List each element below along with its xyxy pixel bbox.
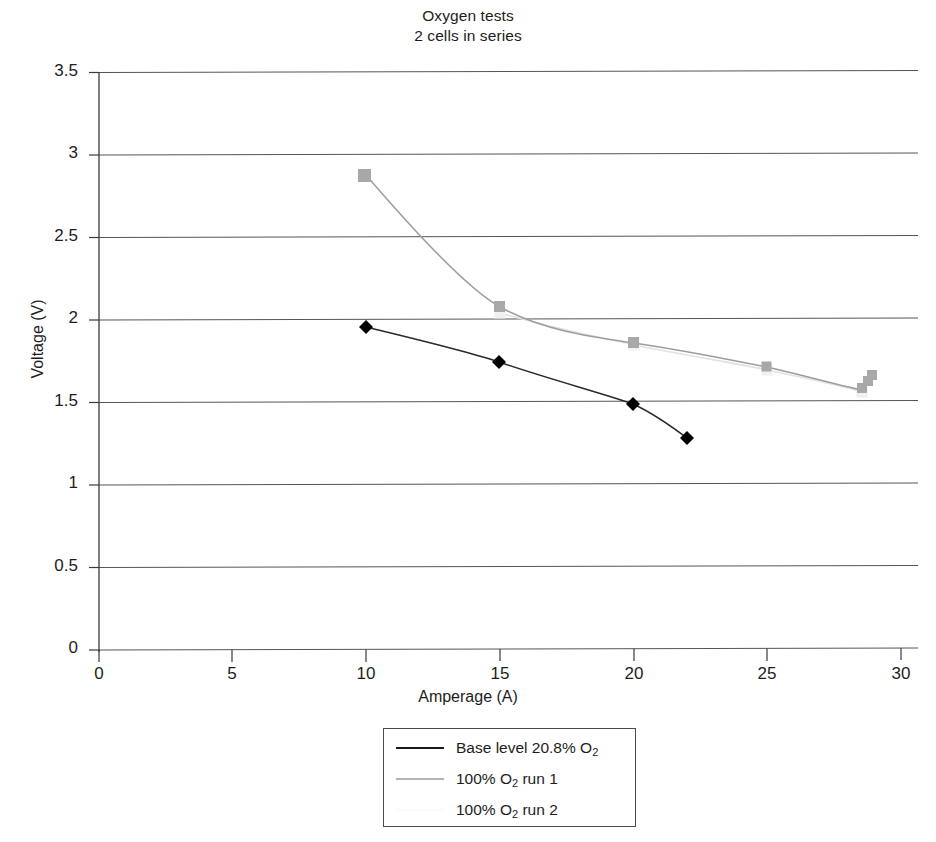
series-run1	[358, 169, 877, 393]
gridline-1.0	[99, 483, 918, 485]
chart-legend: Base level 20.8% O2 100% O2 run 1 100% O…	[383, 728, 636, 827]
y-tick-label-2: 2	[14, 308, 78, 328]
x-tick-label-30: 30	[871, 664, 931, 684]
legend-label-base-level: Base level 20.8% O2	[456, 739, 598, 757]
gridline-3.5	[99, 71, 918, 73]
legend-key-diamond	[384, 737, 456, 759]
gridline-1.5	[99, 401, 918, 403]
series-run1-markers	[358, 169, 877, 393]
chart-container: Oxygen tests 2 cells in series Voltage (…	[0, 0, 936, 842]
x-tick-label-5: 5	[202, 664, 262, 684]
legend-item-run1[interactable]: 100% O2 run 1	[384, 764, 637, 794]
x-tick-label-15: 15	[470, 664, 530, 684]
x-tick-label-0: 0	[69, 664, 129, 684]
y-tick-label-1.5: 1.5	[14, 391, 78, 411]
axis-line-x	[99, 648, 918, 650]
y-axis-ticks	[89, 73, 99, 651]
legend-label-run2: 100% O2 run 2	[456, 801, 558, 819]
series-base-level	[359, 320, 694, 445]
x-tick-label-20: 20	[604, 664, 664, 684]
y-tick-label-2.5: 2.5	[14, 226, 78, 246]
gridline-2.5	[99, 236, 918, 238]
series-base-level-markers	[359, 320, 694, 445]
x-tick-label-25: 25	[737, 664, 797, 684]
gridline-3.0	[99, 153, 918, 155]
legend-item-run2[interactable]: 100% O2 run 2	[384, 795, 637, 825]
y-tick-label-1: 1	[14, 473, 78, 493]
y-tick-label-3: 3	[14, 143, 78, 163]
y-tick-label-0.5: 0.5	[14, 556, 78, 576]
plot-area	[0, 0, 936, 842]
gridline-0.5	[99, 566, 918, 568]
gridline-2.0	[99, 318, 918, 320]
gridlines	[99, 71, 918, 651]
series-run2	[495, 308, 868, 398]
y-tick-label-3.5: 3.5	[14, 61, 78, 81]
legend-key-square-faint	[384, 799, 456, 821]
legend-item-base-level[interactable]: Base level 20.8% O2	[384, 733, 637, 763]
y-tick-label-0: 0	[14, 638, 78, 658]
legend-key-square	[384, 768, 456, 790]
legend-label-run1: 100% O2 run 1	[456, 770, 558, 788]
x-tick-label-10: 10	[336, 664, 396, 684]
